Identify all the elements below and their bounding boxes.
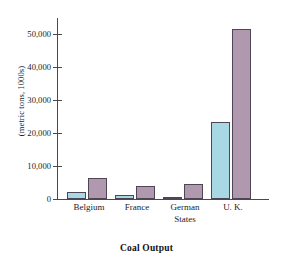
y-tick-label: 20,000 xyxy=(27,128,51,138)
y-tick-mark xyxy=(53,166,62,167)
bar xyxy=(184,184,203,199)
bar xyxy=(211,122,230,199)
x-axis-line xyxy=(57,199,269,200)
bar-group xyxy=(163,18,207,199)
bar-group xyxy=(115,18,159,199)
bar xyxy=(136,186,155,199)
y-axis-line xyxy=(57,18,58,200)
category-label: U. K. xyxy=(200,202,266,214)
bar xyxy=(232,29,251,199)
bar-group xyxy=(67,18,111,199)
y-tick-label: 10,000 xyxy=(27,161,51,171)
bar xyxy=(88,178,107,199)
bar xyxy=(163,197,182,199)
y-tick-mark xyxy=(53,133,62,134)
bar-group xyxy=(211,18,255,199)
y-tick-mark xyxy=(53,34,62,35)
bar xyxy=(115,195,134,199)
y-tick-label: 30,000 xyxy=(27,95,51,105)
x-axis-title: Coal Output xyxy=(0,243,293,253)
coal-output-bar-chart: (metric tons, 1000s) 010,00020,00030,000… xyxy=(0,0,293,264)
y-axis-title: (metric tons, 1000s) xyxy=(16,31,26,171)
y-tick-label: 0 xyxy=(47,194,51,204)
y-tick-mark xyxy=(53,199,62,200)
plot-area: 010,00020,00030,00040,00050,000 BelgiumF… xyxy=(57,18,269,200)
y-tick-label: 50,000 xyxy=(27,29,51,39)
y-tick-mark xyxy=(53,67,62,68)
y-tick-mark xyxy=(53,100,62,101)
y-tick-label: 40,000 xyxy=(27,62,51,72)
bar xyxy=(67,192,86,199)
